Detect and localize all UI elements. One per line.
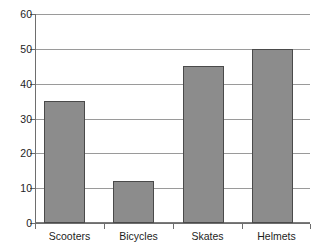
x-tick-mark-2 bbox=[173, 224, 174, 229]
bar-chart: 60 50 40 30 20 10 0 Scooters Bicycles Sk… bbox=[0, 0, 315, 251]
plot-area bbox=[35, 14, 310, 223]
y-axis-label-20: 20 bbox=[0, 148, 32, 159]
y-axis-label-10: 10 bbox=[0, 183, 32, 194]
bar-bicycles bbox=[113, 181, 154, 223]
x-axis-label-helmets: Helmets bbox=[257, 231, 296, 243]
y-axis-label-60: 60 bbox=[0, 9, 32, 20]
x-tick-mark-3 bbox=[242, 224, 243, 229]
y-axis-label-0: 0 bbox=[0, 218, 32, 229]
y-axis-label-50: 50 bbox=[0, 44, 32, 55]
x-tick-mark-4 bbox=[310, 224, 311, 229]
y-axis-label-40: 40 bbox=[0, 78, 32, 89]
x-axis-label-bicycles: Bicycles bbox=[119, 231, 158, 243]
gridline-60 bbox=[35, 14, 310, 15]
bar-scooters bbox=[44, 101, 85, 223]
x-axis-label-skates: Skates bbox=[191, 231, 223, 243]
x-axis-label-scooters: Scooters bbox=[49, 231, 90, 243]
x-tick-mark-1 bbox=[104, 224, 105, 229]
x-tick-mark-0 bbox=[35, 224, 36, 229]
y-axis-line bbox=[35, 14, 36, 224]
y-axis-label-30: 30 bbox=[0, 113, 32, 124]
bar-helmets bbox=[252, 49, 293, 223]
bar-skates bbox=[183, 66, 224, 223]
